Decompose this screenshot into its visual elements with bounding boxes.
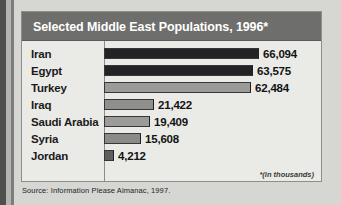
bar-zone: 15,608 (104, 130, 321, 147)
bar-row-label: Iraq (22, 99, 104, 111)
bar (104, 65, 253, 76)
bar-row: Turkey62,484 (22, 79, 321, 96)
bar (104, 82, 251, 93)
chart-footnote-row: *(in thousands) (22, 164, 321, 181)
bar-zone: 19,409 (104, 113, 321, 130)
bar-row-label: Turkey (22, 82, 104, 94)
bar-value-label: 15,608 (145, 133, 179, 145)
bar-row-label: Iran (22, 48, 104, 60)
bar-value-label: 4,212 (118, 150, 146, 162)
bar-value-label: 66,094 (263, 48, 297, 60)
bar-rows-container: Iran66,094Egypt63,575Turkey62,484Iraq21,… (22, 45, 321, 164)
population-bar-chart-figure: Selected Middle East Populations, 1996* … (21, 11, 322, 182)
bar-zone: 66,094 (104, 45, 321, 62)
chart-title: Selected Middle East Populations, 1996* (33, 20, 268, 34)
bar-row-label: Jordan (22, 150, 104, 162)
bar-value-label: 19,409 (154, 116, 188, 128)
bar-row-label: Syria (22, 133, 104, 145)
chart-source-line: Source: Information Please Almanac, 1997… (22, 186, 170, 195)
bar (104, 133, 141, 144)
bar-zone: 4,212 (104, 147, 321, 164)
bar (104, 116, 150, 127)
bar-zone: 21,422 (104, 96, 321, 113)
bar (104, 48, 259, 59)
bar-row: Iran66,094 (22, 45, 321, 62)
bar-row: Egypt63,575 (22, 62, 321, 79)
chart-plot-area: Iran66,094Egypt63,575Turkey62,484Iraq21,… (22, 41, 321, 181)
bar-row-label: Egypt (22, 65, 104, 77)
chart-title-bar: Selected Middle East Populations, 1996* (22, 12, 321, 41)
bar-row: Jordan4,212 (22, 147, 321, 164)
bar-row: Saudi Arabia19,409 (22, 113, 321, 130)
bar-zone: 63,575 (104, 62, 321, 79)
bar-value-label: 21,422 (158, 99, 192, 111)
bar (104, 150, 114, 161)
bar (104, 99, 154, 110)
bar-row: Syria15,608 (22, 130, 321, 147)
bar-value-label: 63,575 (257, 65, 291, 77)
chart-footnote: *(in thousands) (259, 170, 314, 179)
bar-value-label: 62,484 (255, 82, 289, 94)
bar-row: Iraq21,422 (22, 96, 321, 113)
bar-zone: 62,484 (104, 79, 321, 96)
bar-row-label: Saudi Arabia (22, 116, 104, 128)
